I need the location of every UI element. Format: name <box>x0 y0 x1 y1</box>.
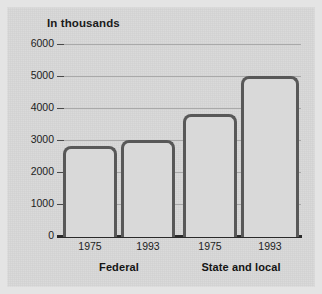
y-axis-tick-mark <box>57 76 64 77</box>
bar <box>183 114 237 237</box>
plot-area: In thousands 6000500040003000200010000 1… <box>0 0 322 294</box>
y-axis-tick-label: 3000 <box>10 133 54 145</box>
group-label: Federal <box>63 261 175 273</box>
y-axis-tick-label: 1000 <box>10 197 54 209</box>
y-axis-tick-label: 6000 <box>10 37 54 49</box>
bar <box>63 146 117 237</box>
x-axis-tick-label: 1993 <box>121 240 175 252</box>
y-axis-tick-mark <box>57 108 64 109</box>
bar <box>121 140 175 237</box>
x-axis-tick-label: 1975 <box>183 240 237 252</box>
y-axis-tick-label: 2000 <box>10 165 54 177</box>
gridline <box>64 44 301 45</box>
chart-title: In thousands <box>47 17 120 29</box>
y-axis-tick-label: 4000 <box>10 101 54 113</box>
x-axis-tick-label: 1993 <box>241 240 299 252</box>
group-label: State and local <box>183 261 299 273</box>
y-axis-tick-mark <box>57 140 64 141</box>
bar <box>241 76 299 237</box>
y-axis-tick-label: 5000 <box>10 69 54 81</box>
y-axis-tick-label: 0 <box>10 229 54 241</box>
y-axis-tick-mark <box>57 44 64 45</box>
chart-screenshot: In thousands 6000500040003000200010000 1… <box>0 0 322 294</box>
x-axis-tick-label: 1975 <box>63 240 117 252</box>
